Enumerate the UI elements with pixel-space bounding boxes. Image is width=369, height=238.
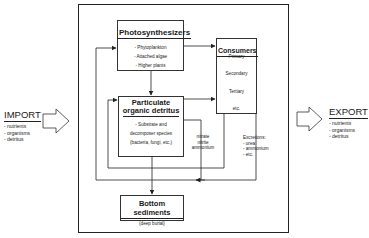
consumer-level-etc: etc. — [217, 106, 256, 111]
photosynthesizer-item: - Higher plants — [118, 61, 183, 70]
sediments-box: Bottom sediments (deep burial) — [120, 195, 184, 221]
import-item: - detritus — [4, 136, 41, 143]
annotation-ammonium: - ammonium — [243, 146, 269, 152]
sediments-subtitle: (deep burial) — [121, 221, 183, 226]
export-item: - detritus — [329, 133, 368, 140]
annotation-ammonium: ammonium — [188, 145, 218, 151]
export-arrow-icon — [297, 107, 322, 131]
detritus-box: Particulate organic detritus - Substrate… — [118, 96, 184, 157]
import-arrow-icon — [43, 109, 69, 133]
photosynthesizer-item: - Attached algae — [118, 52, 183, 61]
export-title: EXPORT — [329, 106, 368, 119]
import-title: IMPORT — [4, 109, 41, 122]
detritus-item: (bacteria, fungi, etc.) — [119, 138, 183, 147]
export-block: EXPORT - nutrients - organisms - detritu… — [329, 101, 368, 140]
excretions-annotation: Excretions: - urea - ammonium - etc. — [243, 135, 269, 157]
detritus-item: decomposer species — [119, 129, 183, 138]
annotation-etc: - etc. — [243, 152, 269, 158]
photosynthesizers-title: Photosynthesizers — [118, 28, 191, 39]
consumer-level-secondary: Secondary — [217, 71, 256, 76]
detritus-item: - Substrate and — [119, 120, 183, 129]
annotation-excretions-title: Excretions: — [243, 135, 269, 141]
nutrients-annotation: nitrate nitrite ammonium — [188, 134, 218, 151]
consumer-level-primary: Primary — [217, 54, 256, 59]
photosynthesizer-item: - Phytoplankton — [118, 43, 183, 52]
photosynthesizers-box: Photosynthesizers - Phytoplankton - Atta… — [117, 20, 184, 71]
import-block: IMPORT - nutrients - organisms - detritu… — [4, 104, 41, 143]
detritus-title-line2: organic detritus — [123, 107, 180, 115]
consumers-box: Consumers Primary Secondary Tertiary etc… — [216, 38, 257, 114]
sediments-title: Bottom sediments — [121, 199, 183, 219]
consumer-level-tertiary: Tertiary — [217, 89, 256, 94]
